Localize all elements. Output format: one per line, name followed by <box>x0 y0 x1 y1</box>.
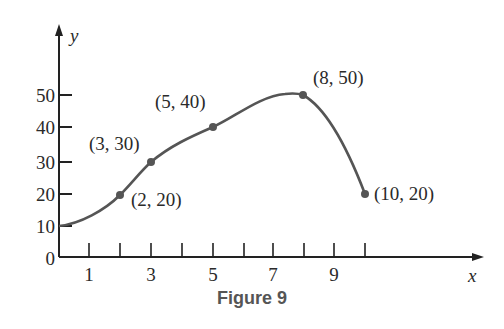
svg-text:40: 40 <box>36 117 55 138</box>
x-axis-arrow-icon <box>472 253 484 261</box>
y-ticks <box>59 95 72 226</box>
figure-caption: Figure 9 <box>0 288 504 309</box>
label-5-40: (5, 40) <box>155 91 206 113</box>
y-axis-label: y <box>68 25 79 46</box>
svg-text:1: 1 <box>84 264 94 285</box>
svg-text:7: 7 <box>268 264 278 285</box>
x-tick-labels: 1 3 5 7 9 <box>84 264 339 285</box>
point-8-50 <box>299 91 307 99</box>
function-curve <box>59 94 365 226</box>
x-ticks <box>89 243 365 257</box>
x-axis-label: x <box>467 265 477 286</box>
svg-text:20: 20 <box>36 184 55 205</box>
y-tick-labels: 0 10 20 30 40 50 <box>36 85 55 269</box>
svg-text:50: 50 <box>36 85 55 106</box>
label-2-20: (2, 20) <box>131 189 182 211</box>
y-axis-arrow-icon <box>55 24 63 36</box>
point-3-30 <box>147 158 155 166</box>
svg-text:30: 30 <box>36 152 55 173</box>
svg-text:9: 9 <box>329 264 339 285</box>
point-labels: (2, 20) (3, 30) (5, 40) (8, 50) (10, 20) <box>89 67 434 211</box>
label-10-20: (10, 20) <box>374 183 434 205</box>
svg-text:10: 10 <box>36 216 55 237</box>
svg-text:3: 3 <box>146 264 156 285</box>
point-5-40 <box>209 123 217 131</box>
svg-text:0: 0 <box>46 248 56 269</box>
point-10-20 <box>361 190 369 198</box>
label-8-50: (8, 50) <box>313 67 364 89</box>
point-2-20 <box>116 191 124 199</box>
data-points <box>116 91 369 199</box>
function-graph: y x 0 10 20 30 40 50 1 3 5 7 9 <box>0 0 504 329</box>
svg-text:5: 5 <box>208 264 218 285</box>
label-3-30: (3, 30) <box>89 133 140 155</box>
